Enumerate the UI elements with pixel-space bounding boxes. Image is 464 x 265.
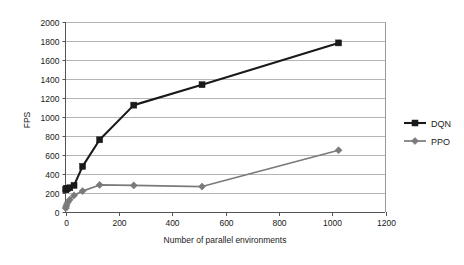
x-tick-label-1200: 1200 xyxy=(377,218,396,228)
x-tick-label-400: 400 xyxy=(165,218,179,228)
y-tick-label-1400: 1400 xyxy=(41,75,60,85)
datapoint-dqn-512 xyxy=(199,82,205,88)
chart-svg: 2000180016001400120010008006004002000 02… xyxy=(0,0,464,265)
y-tick-label-600: 600 xyxy=(45,151,59,161)
y-tick-label-1800: 1800 xyxy=(41,37,60,47)
datapoint-dqn-64 xyxy=(80,163,86,169)
x-tick-label-200: 200 xyxy=(112,218,126,228)
y-tick-label-200: 200 xyxy=(45,189,59,199)
y-tick-label-1600: 1600 xyxy=(41,56,60,66)
y-tick-label-800: 800 xyxy=(45,132,59,142)
fps-scaling-chart: 2000180016001400120010008006004002000 02… xyxy=(0,0,464,265)
legend-marker-dqn xyxy=(412,120,418,126)
y-tick-label-1000: 1000 xyxy=(41,113,60,123)
datapoint-dqn-256 xyxy=(131,102,137,108)
x-tick-label-800: 800 xyxy=(272,218,286,228)
y-tick-label-0: 0 xyxy=(55,208,60,218)
x-axis-title: Number of parallel environments xyxy=(164,235,287,245)
datapoint-dqn-32 xyxy=(71,182,77,188)
x-tick-label-1000: 1000 xyxy=(323,218,342,228)
y-tick-label-400: 400 xyxy=(45,170,59,180)
legend-label-ppo: PPO xyxy=(431,137,450,147)
datapoint-dqn-1024 xyxy=(336,40,342,46)
x-tick-label-600: 600 xyxy=(219,218,233,228)
y-tick-label-2000: 2000 xyxy=(41,18,60,28)
y-axis-title: FPS xyxy=(22,111,32,128)
x-tick-label-0: 0 xyxy=(64,218,69,228)
datapoint-dqn-128 xyxy=(97,137,103,143)
legend-label-dqn: DQN xyxy=(431,119,451,129)
y-tick-label-1200: 1200 xyxy=(41,94,60,104)
